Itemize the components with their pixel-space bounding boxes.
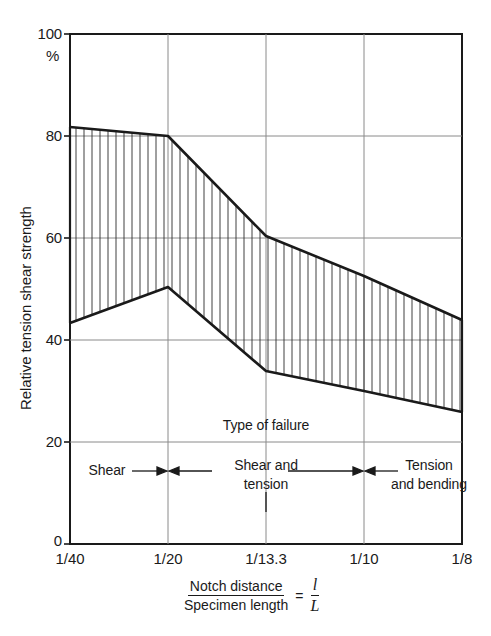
failure-zone-shear-tension-label-line2: tension — [216, 477, 316, 492]
y-tick-80: 80 — [22, 128, 62, 144]
y-tick-20: 20 — [22, 434, 62, 450]
x-axis-title-equals: = — [290, 588, 308, 604]
type-of-failure-label: Type of failure — [206, 418, 326, 433]
x-axis-title: Notch distance Specimen length = l L — [182, 576, 321, 615]
x-tick-1-10: 1/10 — [334, 551, 394, 567]
y-tick-100: 100 — [22, 26, 62, 42]
y-tick-0: 0 — [22, 533, 62, 549]
failure-zone-shear-label: Shear — [82, 463, 132, 478]
x-axis-title-numerator: Notch distance — [188, 578, 285, 596]
x-axis-title-ratio: Notch distance Specimen length — [182, 578, 290, 613]
x-tick-1-8: 1/8 — [432, 551, 491, 567]
x-tick-1-13-3: 1/13.3 — [236, 551, 296, 567]
x-axis-title-symbol-numerator: l — [311, 576, 319, 596]
failure-zone-shear-tension-label-line1: Shear and — [216, 458, 316, 473]
failure-zone-tension-bending-label-line2: and bending — [379, 477, 479, 492]
x-tick-1-20: 1/20 — [138, 551, 198, 567]
y-axis-title: Relative tension shear strength — [18, 206, 34, 410]
chart-canvas — [0, 0, 491, 636]
y-unit-percent: % — [46, 48, 59, 64]
x-axis-title-symbol-ratio: l L — [308, 576, 321, 615]
x-tick-1-40: 1/40 — [40, 551, 100, 567]
chart-figure: 100 % 80 60 40 20 0 Relative tension she… — [0, 0, 491, 636]
x-axis-title-symbol-denominator: L — [308, 596, 321, 615]
failure-zone-tension-bending-label-line1: Tension — [389, 458, 469, 473]
x-axis-title-denominator: Specimen length — [182, 596, 290, 613]
